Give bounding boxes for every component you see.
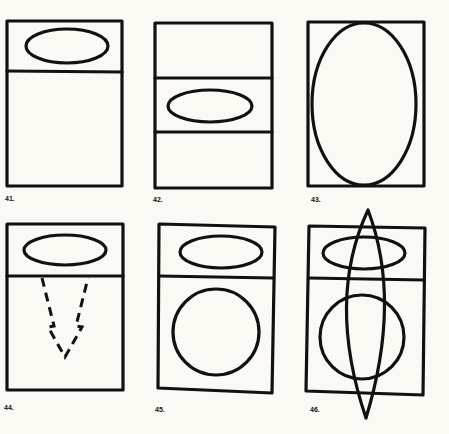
ellipse xyxy=(24,235,106,265)
ellipse xyxy=(168,90,252,122)
frame xyxy=(155,23,272,188)
dashed-arrow-icon xyxy=(42,278,88,357)
ellipse xyxy=(323,237,405,269)
vesica-shape xyxy=(346,210,384,418)
figure-label-43: 43. xyxy=(311,196,321,203)
figure-45 xyxy=(158,224,275,393)
circle xyxy=(320,295,404,379)
figure-label-45: 45. xyxy=(155,406,165,413)
ellipse xyxy=(26,29,108,63)
frame xyxy=(158,224,275,393)
figure-43 xyxy=(308,22,424,186)
figure-44 xyxy=(7,224,123,390)
figure-41 xyxy=(7,21,122,186)
circle xyxy=(173,289,259,375)
figure-46 xyxy=(306,210,425,418)
vertical-ellipse xyxy=(312,23,416,185)
divider-line xyxy=(159,276,273,278)
frame xyxy=(7,21,122,186)
figure-42 xyxy=(155,23,272,188)
divider-line xyxy=(309,278,424,280)
figure-label-44: 44. xyxy=(4,404,14,411)
diagram-canvas xyxy=(0,0,449,434)
frame xyxy=(308,22,424,186)
figure-label-41: 41. xyxy=(5,195,15,202)
ellipse xyxy=(180,236,262,268)
figure-label-46: 46. xyxy=(310,406,320,413)
figure-label-42: 42. xyxy=(153,196,163,203)
divider-line xyxy=(7,71,122,72)
